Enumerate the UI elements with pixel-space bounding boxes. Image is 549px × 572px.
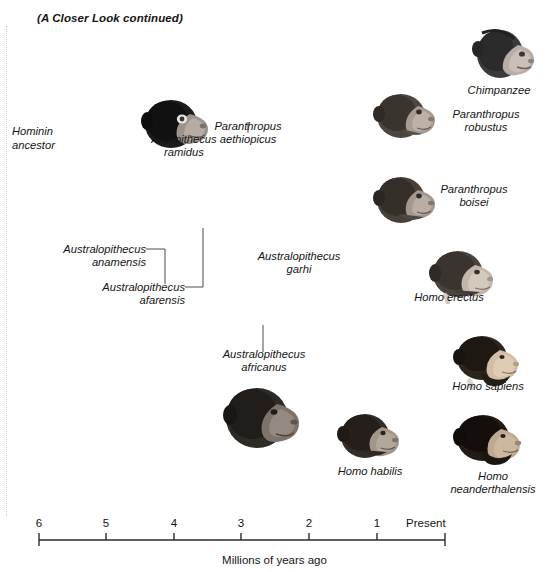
axis-tick-label-4: 4 bbox=[159, 517, 189, 529]
axis-tick-label-1: 1 bbox=[362, 517, 392, 529]
axis-tick-label-2: 2 bbox=[294, 517, 324, 529]
axis-tick-label-present: Present bbox=[406, 517, 446, 529]
figure-root: (A Closer Look continued) bbox=[0, 0, 549, 572]
axis-tick-label-6: 6 bbox=[24, 517, 54, 529]
axis-tick-label-5: 5 bbox=[91, 517, 121, 529]
axis-caption: Millions of years ago bbox=[0, 554, 549, 566]
axis-tick-label-3: 3 bbox=[226, 517, 256, 529]
time-axis-line bbox=[0, 0, 549, 572]
